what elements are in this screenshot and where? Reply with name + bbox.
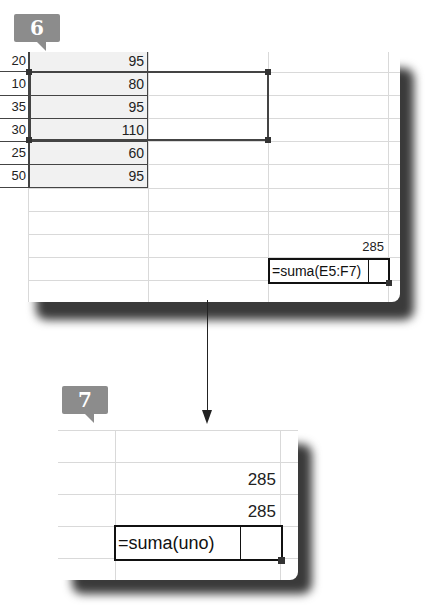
gridline xyxy=(28,211,400,212)
row-label: 35 xyxy=(0,96,28,119)
row-label: 20 xyxy=(0,52,28,72)
value-cell[interactable]: 60 xyxy=(30,142,148,165)
result-cell[interactable]: 285 xyxy=(115,498,280,526)
arrow-connector xyxy=(207,300,208,412)
sum-result-cell[interactable]: 285 xyxy=(268,236,388,258)
gridline xyxy=(148,164,400,165)
gridline xyxy=(58,430,298,431)
value-cell[interactable]: 95 xyxy=(30,52,148,72)
cell-divider xyxy=(240,527,241,559)
row-label: 50 xyxy=(0,165,28,188)
selected-range[interactable] xyxy=(29,71,269,141)
value-cell[interactable]: 95 xyxy=(30,165,148,188)
step-number: 6 xyxy=(30,16,44,40)
formula-text: =suma(E5:F7) xyxy=(272,260,361,282)
gridline xyxy=(58,462,298,463)
spreadsheet-panel-top: 20 10 35 30 25 50 95 80 95 110 60 95 285… xyxy=(0,52,400,302)
row-label: 25 xyxy=(0,142,28,165)
cell-divider xyxy=(368,260,369,282)
range-corner-handle[interactable] xyxy=(26,69,32,75)
row-label: 30 xyxy=(0,119,28,142)
range-corner-handle[interactable] xyxy=(265,69,271,75)
arrow-down-icon xyxy=(202,410,212,424)
formula-input-cell[interactable]: =suma(uno) xyxy=(114,525,283,561)
gridline xyxy=(28,234,400,235)
step-badge-7: 7 xyxy=(62,386,108,414)
spreadsheet-panel-bottom: 285 285 =suma(uno) xyxy=(58,430,298,580)
step-badge-6: 6 xyxy=(14,14,60,42)
row-label: 10 xyxy=(0,73,28,96)
result-cell[interactable]: 285 xyxy=(115,466,280,494)
range-corner-handle[interactable] xyxy=(265,137,271,143)
range-corner-handle[interactable] xyxy=(26,137,32,143)
gridline xyxy=(148,141,400,142)
gridline xyxy=(58,494,298,495)
fill-handle[interactable] xyxy=(278,557,285,564)
fill-handle[interactable] xyxy=(386,280,392,286)
step-number: 7 xyxy=(78,388,92,412)
formula-text: =suma(uno) xyxy=(118,527,215,559)
formula-input-cell[interactable]: =suma(E5:F7) xyxy=(268,258,390,284)
gridline xyxy=(28,188,400,189)
